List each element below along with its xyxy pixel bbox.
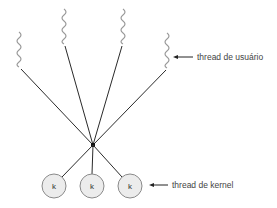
user-thread-squiggle-icon	[62, 9, 66, 44]
kernel-threads: k k k	[42, 174, 142, 198]
connector-line	[93, 145, 122, 177]
user-thread-squiggle-icon	[121, 9, 125, 44]
user-thread-squiggle-icon	[17, 32, 21, 67]
user-connectors	[21, 46, 166, 145]
many-to-one-thread-diagram: k k k thread de usuário thread de kernel	[0, 0, 277, 208]
arrow-left-icon	[149, 183, 154, 187]
connector-line	[92, 145, 93, 174]
user-threads	[17, 9, 169, 68]
user-thread-annotation: thread de usuário	[173, 52, 263, 62]
kernel-thread-text: thread de kernel	[172, 180, 234, 190]
user-thread-label: thread de usuário	[197, 52, 263, 62]
kernel-connectors	[62, 145, 122, 177]
arrow-left-icon	[173, 55, 178, 59]
connector-line	[62, 145, 93, 177]
kernel-thread-annotation: thread de kernel	[149, 180, 234, 190]
user-thread-squiggle-icon	[165, 33, 169, 68]
